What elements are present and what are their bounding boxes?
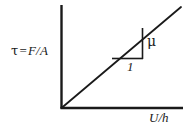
slope-mu-label: μ bbox=[147, 34, 156, 48]
force-over-area-expression: F/A bbox=[28, 43, 48, 58]
shear-stress-diagram: τ=F/A U/h μ 1 bbox=[0, 0, 190, 129]
data-line-newtonian bbox=[62, 7, 182, 108]
equals-sign: = bbox=[18, 43, 28, 58]
y-axis-label: τ=F/A bbox=[11, 44, 48, 57]
x-axis-label: U/h bbox=[149, 111, 169, 124]
slope-run-label: 1 bbox=[127, 60, 134, 73]
